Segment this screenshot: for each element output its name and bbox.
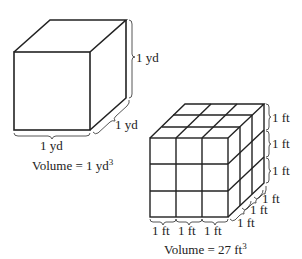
small-cube-height-label-2: 1 ft — [272, 136, 290, 151]
large-cube-height-label: 1 yd — [136, 50, 159, 65]
small-cube-width-label-1: 1 ft — [152, 223, 170, 238]
small-cube-volume: Volume = 27 ft3 — [164, 241, 247, 257]
large-cube-width-label: 1 yd — [40, 138, 63, 153]
small-cube — [150, 104, 264, 217]
volume-diagram: 1 yd 1 yd 1 yd Volume = 1 yd3 1 ft 1 — [0, 0, 302, 259]
large-cube — [14, 20, 126, 130]
large-cube-depth-label: 1 yd — [115, 117, 138, 132]
small-cube-width-label-2: 1 ft — [178, 223, 196, 238]
small-cube-height-label-3: 1 ft — [272, 163, 290, 178]
large-cube-volume: Volume = 1 yd3 — [32, 157, 114, 173]
small-cube-depth-label-3: 1 ft — [237, 215, 255, 230]
small-cube-height-label-1: 1 ft — [272, 110, 290, 125]
small-cube-width-label-3: 1 ft — [204, 223, 222, 238]
